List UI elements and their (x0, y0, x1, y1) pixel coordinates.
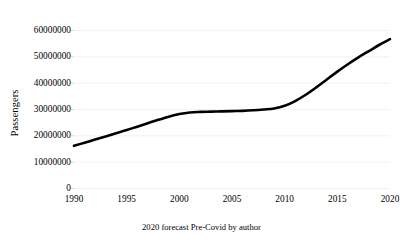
y-axis-tick-labels: 0100000002000000030000000400000005000000… (5, 0, 71, 247)
x-axis-tick-labels: 1990199520002005201020152020 (0, 193, 403, 207)
x-tick-label: 2015 (315, 193, 359, 205)
x-tick-label: 1995 (105, 193, 149, 205)
y-tick-label: 20000000 (0, 130, 71, 140)
x-tick-label: 2000 (157, 193, 201, 205)
axis-tick-marks (71, 31, 74, 189)
y-tick-label: 60000000 (0, 25, 71, 35)
y-tick-label: 10000000 (0, 157, 71, 167)
line-chart-figure: Passengers 01000000020000000300000004000… (0, 0, 403, 247)
x-tick-label: 2010 (263, 193, 307, 205)
chart-caption: 2020 forecast Pre-Covid by author (0, 221, 403, 233)
x-tick-label: 1990 (52, 193, 96, 205)
data-series-line-passengers (74, 39, 390, 146)
y-tick-label: 0 (0, 183, 71, 193)
gridlines (74, 31, 390, 189)
y-tick-label: 30000000 (0, 104, 71, 114)
x-tick-label: 2020 (368, 193, 403, 205)
x-tick-label: 2005 (210, 193, 254, 205)
y-tick-label: 50000000 (0, 51, 71, 61)
y-tick-label: 40000000 (0, 78, 71, 88)
